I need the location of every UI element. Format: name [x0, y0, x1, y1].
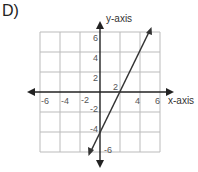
- coordinate-plane: [0, 0, 198, 172]
- y-axis-label: y-axis: [106, 13, 132, 24]
- x-tick-neg6: -6: [41, 96, 49, 106]
- x-tick-4: 4: [135, 96, 140, 106]
- y-tick-6: 6: [93, 33, 98, 43]
- axes: [30, 24, 170, 165]
- y-tick-2: 2: [93, 73, 98, 83]
- line-arrow-up: [146, 27, 152, 35]
- x-tick-6: 6: [155, 96, 160, 106]
- x-tick-neg4: -4: [61, 96, 69, 106]
- x-tick-neg2: -2: [81, 95, 89, 105]
- x-tick-2: 2: [113, 82, 118, 92]
- y-tick-neg4: -4: [90, 124, 98, 134]
- y-tick-4: 4: [93, 53, 98, 63]
- y-tick-neg6: -6: [104, 145, 112, 155]
- y-tick-neg2: -2: [90, 104, 98, 114]
- x-axis-label: x-axis: [168, 95, 194, 106]
